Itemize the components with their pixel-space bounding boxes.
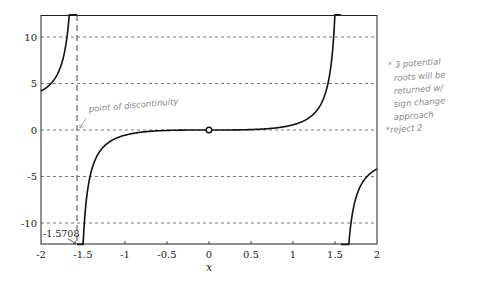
note-line: * 3 potential xyxy=(387,56,441,70)
x-tick-label: 0 xyxy=(206,249,212,260)
x-axis-title: x xyxy=(206,261,213,274)
y-tick-label: -5 xyxy=(27,171,37,182)
handwritten-notes: * 3 potential roots will be returned w/ … xyxy=(385,56,445,135)
origin-marker xyxy=(206,127,212,133)
y-tick-labels: 10 5 0 -5 -10 xyxy=(21,32,37,229)
asymptote-arrow-icon xyxy=(68,239,75,243)
chart: -2 -1.5 -1 -0.5 0 0.5 1 1.5 2 x 10 5 0 -… xyxy=(0,0,479,283)
x-tick-label: -1 xyxy=(120,249,130,260)
x-tick-labels: -2 -1.5 -1 -0.5 0 0.5 1 1.5 2 xyxy=(36,249,380,260)
y-tick-label: 10 xyxy=(24,32,37,43)
discontinuity-note: point of discontinuity xyxy=(87,96,179,114)
x-tick-label: -2 xyxy=(36,249,46,260)
note-line: returned w/ xyxy=(393,82,444,96)
curve-branch-left xyxy=(41,15,77,91)
y-tick-label: 5 xyxy=(31,78,37,89)
asymptote-value-label: -1.5708 xyxy=(43,228,79,239)
x-tick-label: -1.5 xyxy=(73,249,92,260)
note-line: *reject 2 xyxy=(385,122,422,135)
note-line: sign change xyxy=(393,95,445,109)
x-tick-label: 1 xyxy=(290,249,296,260)
x-tick-label: 0.5 xyxy=(243,249,259,260)
y-tick-label: 0 xyxy=(31,125,37,136)
x-tick-label: 1.5 xyxy=(327,249,343,260)
y-tick-label: -10 xyxy=(21,218,37,229)
x-tick-label: 2 xyxy=(374,249,380,260)
note-line: roots will be xyxy=(393,69,445,83)
note-line: approach xyxy=(393,109,434,122)
x-tick-label: -0.5 xyxy=(157,249,176,260)
curve-branch-right xyxy=(341,169,377,244)
